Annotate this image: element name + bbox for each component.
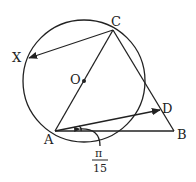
angle-numerator: π <box>95 147 102 160</box>
vector-CX <box>29 30 113 58</box>
label-B: B <box>177 127 187 142</box>
label-O: O <box>70 72 81 87</box>
vector-AD <box>55 110 160 131</box>
geometry-diagram: C X O D A B π 15 <box>0 0 196 182</box>
angle-denominator: 15 <box>93 162 107 175</box>
label-D: D <box>162 101 172 116</box>
center-point-O <box>82 79 86 83</box>
label-A: A <box>43 132 54 147</box>
label-C: C <box>111 14 121 29</box>
label-X: X <box>12 50 22 65</box>
